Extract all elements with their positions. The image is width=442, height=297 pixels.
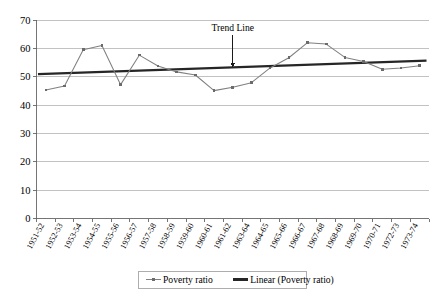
legend-marker-swatch xyxy=(152,278,155,281)
y-tick-label: 50 xyxy=(20,71,31,82)
data-point-marker xyxy=(101,44,104,47)
y-axis-tick-labels: 010203040506070 xyxy=(20,15,31,225)
data-point-marker xyxy=(45,89,48,92)
data-point-marker xyxy=(157,65,160,68)
data-point-marker xyxy=(418,64,421,67)
y-tick-label: 0 xyxy=(25,213,30,224)
data-point-marker xyxy=(306,41,309,44)
data-point-marker xyxy=(325,43,328,46)
x-axis-tick-labels: 1951-521952-531953-541954-551955-561956-… xyxy=(25,221,420,251)
y-tick-label: 70 xyxy=(20,15,31,26)
y-tick-label: 40 xyxy=(20,100,31,111)
y-tick-label: 20 xyxy=(20,156,31,167)
data-point-marker xyxy=(138,54,141,57)
y-tick-label: 10 xyxy=(20,185,31,196)
data-point-marker xyxy=(119,83,122,86)
data-point-marker xyxy=(63,85,66,88)
data-point-marker xyxy=(175,71,178,74)
data-point-marker xyxy=(194,74,197,77)
trend-line-annotation-label: Trend Line xyxy=(211,22,254,33)
data-point-marker xyxy=(344,56,347,59)
data-point-marker xyxy=(231,86,234,89)
data-point-marker xyxy=(400,67,403,70)
data-point-marker xyxy=(213,89,216,92)
y-tick-label: 30 xyxy=(20,128,31,139)
poverty-ratio-line-chart: 010203040506070 1951-521952-531953-54195… xyxy=(0,0,442,297)
annotations-group: Trend Line xyxy=(211,22,254,68)
data-point-marker xyxy=(82,48,85,51)
legend-label: Poverty ratio xyxy=(163,274,213,285)
data-point-marker xyxy=(288,56,291,59)
data-point-marker xyxy=(381,68,384,71)
data-point-marker xyxy=(362,60,365,63)
data-point-marker xyxy=(250,81,253,84)
data-point-marker xyxy=(269,67,272,70)
y-tick-label: 60 xyxy=(20,43,31,54)
x-axis-tickmarks xyxy=(37,219,430,223)
chart-container: 010203040506070 1951-521952-531953-54195… xyxy=(0,0,442,297)
x-tick-label: 1973-74 xyxy=(399,221,420,251)
chart-legend: Poverty ratioLinear (Poverty ratio) xyxy=(138,271,334,288)
gridlines-group xyxy=(33,20,429,219)
legend-label: Linear (Poverty ratio) xyxy=(250,274,334,286)
